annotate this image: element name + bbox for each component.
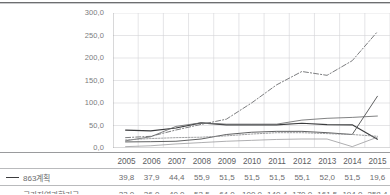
table-cell: 55,9 [189, 169, 214, 185]
y-tick-100: 100,0 [85, 99, 104, 107]
table-cell: 19,6 [365, 169, 390, 185]
gridlines [113, 13, 390, 148]
legend-item-863: 863계획 [6, 169, 114, 185]
data-table: 2005 2006 2007 2008 2009 2010 2011 2012 … [0, 148, 390, 194]
legend-label: 863계획 [23, 172, 50, 183]
y-tick-150: 150,0 [85, 77, 104, 85]
table-cell: 194,0 [340, 186, 365, 194]
table-cell: 39,8 [114, 169, 139, 185]
table-header-row: 2005 2006 2007 2008 2009 2010 2011 2012 … [0, 153, 390, 169]
y-tick-250: 250,0 [85, 32, 104, 40]
legend-item-nsfc: 국가자연과학기금 [6, 186, 114, 194]
y-tick-50: 50,0 [89, 122, 104, 130]
table-cell: 100,0 [239, 186, 264, 194]
table-header-cell: 2005 [114, 153, 139, 169]
table-header-cell: 2015 [365, 153, 390, 169]
table-cell: 51,5 [340, 169, 365, 185]
table-cell: 258,4 [365, 186, 390, 194]
table-cell: 52,0 [315, 169, 340, 185]
plot-area [113, 13, 390, 148]
table-header-cells: 2005 2006 2007 2008 2009 2010 2011 2012 … [114, 153, 390, 169]
table-cell: 52,5 [189, 186, 214, 194]
table-cell: 51,5 [265, 169, 290, 185]
table-cell: 64,0 [214, 186, 239, 194]
table-row-cells: 39,8 37,9 44,4 55,9 51,5 51,5 51,5 55,1 … [114, 169, 390, 185]
table-header-cell: 2006 [139, 153, 164, 169]
table-header-cell: 2010 [239, 153, 264, 169]
line-chart: 300,0 250,0 200,0 150,0 100,0 50,0 0,0 [0, 5, 390, 148]
table-header-cell: 2008 [189, 153, 214, 169]
table-header-cell: 2011 [265, 153, 290, 169]
legend-line-icon [6, 177, 19, 178]
legend-dashdot-icon [6, 194, 19, 195]
table-header-cell: 2009 [214, 153, 239, 169]
table-header-cell: 2014 [340, 153, 365, 169]
table-cell: 44,4 [164, 169, 189, 185]
table-header-cell: 2012 [290, 153, 315, 169]
table-cell: 140,4 [265, 186, 290, 194]
table-cell: 26,0 [139, 186, 164, 194]
table-cell: 170,0 [290, 186, 315, 194]
table-row: 국가자연과학기금 23,0 26,0 40,0 52,5 64,0 100,0 … [0, 186, 390, 194]
chart-sheet: 300,0 250,0 200,0 150,0 100,0 50,0 0,0 2… [0, 0, 390, 194]
legend-label: 국가자연과학기금 [23, 189, 79, 195]
plot-svg [113, 13, 390, 148]
table-cell: 51,5 [239, 169, 264, 185]
table-cell: 40,0 [164, 186, 189, 194]
table-cell: 55,1 [290, 169, 315, 185]
table-header-cell: 2013 [315, 153, 340, 169]
top-divider-soft [0, 3, 390, 4]
table-row: 863계획 39,8 37,9 44,4 55,9 51,5 51,5 51,5… [0, 169, 390, 185]
table-cell: 23,0 [114, 186, 139, 194]
table-header-cell: 2007 [164, 153, 189, 169]
y-axis-labels: 300,0 250,0 200,0 150,0 100,0 50,0 0,0 [60, 13, 108, 148]
table-cell: 51,5 [214, 169, 239, 185]
y-tick-300: 300,0 [85, 9, 104, 17]
table-cell: 161,5 [315, 186, 340, 194]
table-cell: 37,9 [139, 169, 164, 185]
table-row-cells: 23,0 26,0 40,0 52,5 64,0 100,0 140,4 170… [114, 186, 390, 194]
y-tick-200: 200,0 [85, 54, 104, 62]
